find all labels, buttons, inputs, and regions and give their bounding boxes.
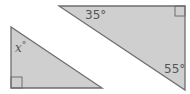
angle-label-55: 55°	[164, 62, 185, 76]
triangles-diagram: x° 35° 55°	[0, 0, 190, 94]
angle-label-35: 35°	[85, 8, 106, 22]
left-triangle: x°	[11, 27, 102, 88]
